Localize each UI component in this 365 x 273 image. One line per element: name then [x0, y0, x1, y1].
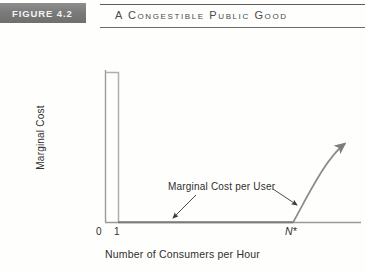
- chart-svg: [0, 32, 365, 273]
- figure-number-badge: FIGURE 4.2: [0, 3, 86, 23]
- figure-container: FIGURE 4.2 A Congestible Public Good: [0, 0, 365, 273]
- annotation-arrow-left: [173, 195, 196, 218]
- y-axis-label: Marginal Cost: [35, 78, 46, 198]
- header-rule-bottom: [100, 27, 365, 28]
- chart-plot-area: Marginal Cost 0 1 N* Marginal Cost per U…: [0, 32, 365, 273]
- figure-header: FIGURE 4.2 A Congestible Public Good: [0, 0, 365, 32]
- first-user-cost-bar: [106, 73, 119, 223]
- x-axis-label: Number of Consumers per Hour: [0, 248, 365, 260]
- x-tick-label-n-star: N*: [285, 225, 297, 237]
- figure-number-label: FIGURE 4.2: [0, 8, 73, 19]
- x-tick-label-0: 0: [96, 226, 102, 237]
- annotation-arrow-right: [273, 189, 297, 205]
- annotation-marginal-cost-per-user: Marginal Cost per User: [168, 181, 275, 192]
- header-rule-top: [100, 4, 365, 5]
- figure-title: A Congestible Public Good: [115, 9, 288, 21]
- x-tick-label-1: 1: [114, 226, 120, 237]
- congestion-rise-curve: [293, 144, 345, 223]
